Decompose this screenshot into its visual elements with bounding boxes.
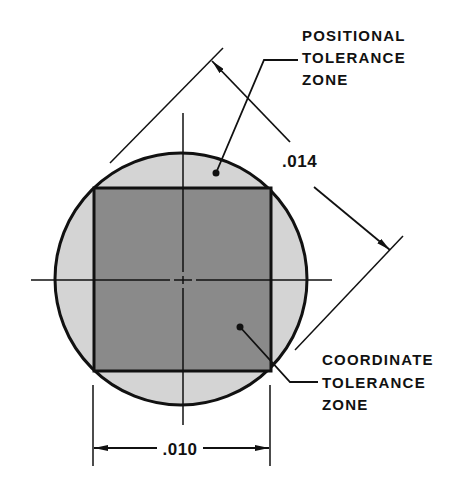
tolerance-zone-diagram: .014 .010 POSITIONAL TOLERANCE ZONE COOR… [0,0,471,498]
diagonal-dimension-value: .014 [282,152,317,171]
positional-label-line2: TOLERANCE [302,49,406,66]
positional-label-line3: ZONE [302,71,348,88]
positional-zone-leader-dot [213,170,220,177]
positional-zone-label: POSITIONAL TOLERANCE ZONE [302,27,406,88]
horizontal-dimension-value: .010 [162,440,197,459]
coordinate-label-line3: ZONE [322,396,368,413]
coordinate-zone-label: COORDINATE TOLERANCE ZONE [322,351,434,413]
positional-label-line1: POSITIONAL [302,27,406,44]
coordinate-label-line2: TOLERANCE [322,374,426,391]
coordinate-zone-leader-dot [237,324,244,331]
coordinate-label-line1: COORDINATE [322,351,434,368]
